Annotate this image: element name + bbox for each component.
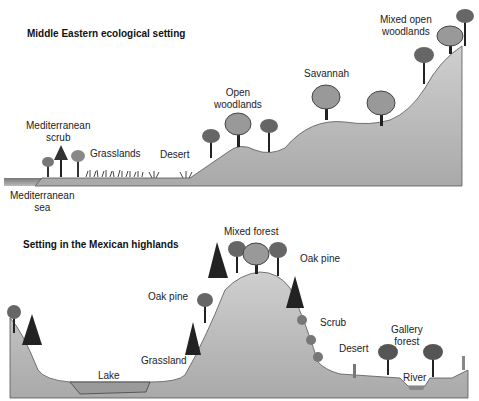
label-line: woodlands <box>214 99 262 111</box>
label-desert-top: Desert <box>160 149 189 161</box>
bottom-panel-title: Setting in the Mexican highlands <box>23 239 179 250</box>
label-savannah: Savannah <box>304 68 349 80</box>
label-line: woodlands <box>380 26 432 38</box>
label-oak-pine-left: Oak pine <box>148 291 188 303</box>
label-line: scrub <box>26 132 90 144</box>
label-oak-pine-right: Oak pine <box>300 253 340 265</box>
label-line: Mixed open <box>380 14 432 26</box>
label-line: Mediterranean <box>10 190 74 202</box>
label-mixed-forest: Mixed forest <box>224 226 278 238</box>
label-grasslands: Grasslands <box>90 148 141 160</box>
label-scrub: Scrub <box>320 317 346 329</box>
label-mediterranean-scrub: Mediterranean scrub <box>26 120 90 144</box>
label-line: Mediterranean <box>26 120 90 132</box>
label-grassland: Grassland <box>141 355 187 367</box>
label-lake: Lake <box>98 370 120 382</box>
label-gallery-forest: Gallery forest <box>391 324 423 348</box>
label-open-woodlands: Open woodlands <box>214 87 262 111</box>
mediterranean-scrub-trees-icon <box>42 145 85 177</box>
label-line: forest <box>391 336 423 348</box>
label-line: sea <box>10 202 74 214</box>
top-panel-title: Middle Eastern ecological setting <box>27 28 185 39</box>
grass-icon <box>86 170 192 178</box>
label-line: Gallery <box>391 324 423 336</box>
cactus-icon <box>462 356 465 370</box>
lake-water <box>70 382 150 394</box>
river-water <box>408 386 425 390</box>
label-river: River <box>403 372 426 384</box>
label-line: Open <box>214 87 262 99</box>
label-desert-bottom: Desert <box>339 343 368 355</box>
savannah-trees-icon <box>312 85 395 126</box>
label-mediterranean-sea: Mediterranean sea <box>10 190 74 214</box>
label-mixed-open-woodlands: Mixed open woodlands <box>380 14 432 38</box>
cactus-icon <box>353 364 356 378</box>
